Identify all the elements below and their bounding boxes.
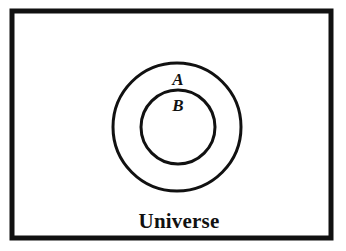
universe-rectangle: [12, 11, 331, 238]
diagram-canvas: A B Universe: [0, 0, 346, 251]
venn-diagram-figure: A B Universe: [0, 0, 346, 251]
universe-label: Universe: [139, 209, 220, 233]
set-a-label: A: [171, 70, 183, 89]
set-b-label: B: [171, 96, 183, 115]
